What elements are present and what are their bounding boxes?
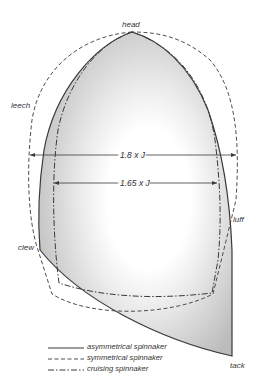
label-leech: leech	[11, 102, 30, 110]
legend: asymmetrical spinnaker symmetrical spinn…	[48, 341, 167, 374]
legend-label: asymmetrical spinnaker	[87, 342, 167, 351]
legend-label: cruising spinnaker	[87, 364, 148, 373]
label-tack: tack	[230, 362, 245, 370]
asymmetrical-spinnaker-outline	[39, 32, 232, 356]
dimension-label-outer: 1.8 x J	[120, 151, 145, 160]
legend-item-asymmetrical: asymmetrical spinnaker	[48, 341, 167, 352]
label-luff: luff	[233, 216, 244, 224]
legend-item-symmetrical: symmetrical spinnaker	[48, 352, 167, 363]
label-head: head	[122, 21, 140, 29]
legend-label: symmetrical spinnaker	[87, 353, 163, 362]
label-clew: clew	[18, 244, 34, 252]
dimension-label-inner: 1.65 x J	[120, 179, 150, 188]
legend-item-cruising: cruising spinnaker	[48, 363, 167, 374]
spinnaker-comparison-diagram	[0, 0, 261, 391]
